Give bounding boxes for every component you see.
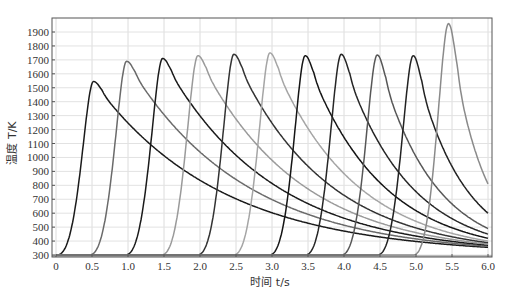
- x-tick-label: 1.0: [121, 260, 135, 272]
- y-tick-label: 1000: [27, 151, 50, 163]
- y-axis-ticks: 3004005006007008009001000110012001300140…: [27, 26, 55, 261]
- y-tick-label: 1900: [27, 26, 50, 38]
- x-tick-label: 5.5: [445, 260, 459, 272]
- y-tick-label: 700: [33, 193, 50, 205]
- x-axis-label: 时间 t/s: [250, 276, 290, 289]
- y-tick-label: 1400: [27, 96, 50, 108]
- x-tick-label: 4.0: [337, 260, 351, 272]
- y-tick-label: 1200: [27, 124, 50, 136]
- y-tick-label: 400: [33, 235, 50, 247]
- x-tick-label: 6.0: [481, 260, 495, 272]
- x-tick-label: 0.5: [85, 260, 99, 272]
- y-tick-label: 1100: [27, 138, 49, 150]
- x-tick-label: 3.0: [265, 260, 279, 272]
- x-tick-label: 3.5: [301, 260, 315, 272]
- y-tick-label: 1700: [27, 54, 50, 66]
- y-tick-label: 600: [33, 207, 50, 219]
- y-tick-label: 1500: [27, 82, 50, 94]
- y-tick-label: 900: [33, 165, 50, 177]
- x-tick-label: 2.0: [193, 260, 207, 272]
- y-tick-label: 1600: [27, 68, 50, 80]
- x-tick-label: 4.5: [373, 260, 387, 272]
- x-tick-label: 1.5: [157, 260, 171, 272]
- temperature-time-chart: 00.51.01.52.02.53.03.54.04.55.05.56.0 30…: [0, 0, 506, 296]
- x-tick-label: 0: [53, 260, 59, 272]
- x-tick-label: 5.0: [409, 260, 423, 272]
- y-tick-label: 1300: [27, 110, 50, 122]
- y-tick-label: 300: [33, 249, 50, 261]
- y-tick-label: 1800: [27, 40, 50, 52]
- y-tick-label: 800: [33, 179, 50, 191]
- x-tick-label: 2.5: [229, 260, 243, 272]
- y-axis-label: 温度 T/K: [5, 121, 19, 165]
- y-tick-label: 500: [33, 221, 50, 233]
